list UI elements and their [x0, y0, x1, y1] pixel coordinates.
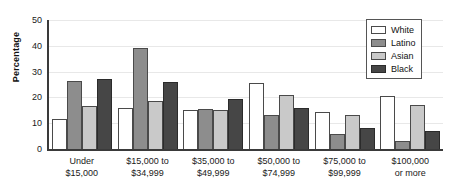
- legend-swatch: [371, 52, 386, 60]
- bar: [148, 101, 163, 149]
- bar: [133, 48, 148, 149]
- bar: [97, 79, 112, 149]
- legend-label: Asian: [391, 51, 414, 61]
- legend-item: Black: [371, 62, 416, 75]
- x-axis-label: $75,000 to$99,999: [312, 155, 378, 179]
- bar: [345, 115, 360, 149]
- bar: [380, 96, 395, 149]
- bar: [330, 134, 345, 149]
- bar: [198, 109, 213, 149]
- bar: [118, 108, 133, 149]
- bar-group: [180, 20, 246, 149]
- legend-label: Black: [391, 64, 413, 74]
- bar: [279, 95, 294, 149]
- y-axis-tick-label: 0: [37, 144, 42, 154]
- bar: [395, 141, 410, 149]
- legend-swatch: [371, 65, 386, 73]
- bar: [315, 112, 330, 149]
- bar-group: [115, 20, 181, 149]
- y-axis-tick-label: 30: [32, 67, 42, 77]
- y-axis-tick-label: 20: [32, 92, 42, 102]
- x-axis-labels: Under$15,000$15,000 to$34,999$35,000 to$…: [49, 155, 443, 179]
- bar: [360, 128, 375, 149]
- bar-group: [246, 20, 312, 149]
- x-axis-line: [47, 149, 443, 151]
- y-axis-title: Percentage: [11, 17, 21, 97]
- bar: [213, 110, 228, 149]
- legend: WhiteLatinoAsianBlack: [366, 19, 422, 79]
- y-axis-tick-label: 40: [32, 41, 42, 51]
- legend-swatch: [371, 26, 386, 34]
- bar-chart: Percentage 01020304050 Under$15,000$15,0…: [0, 0, 456, 189]
- x-axis-label: $100,000or more: [377, 155, 443, 179]
- x-axis-label: $35,000 to$49,999: [180, 155, 246, 179]
- bar: [163, 82, 178, 149]
- y-axis-tick-label: 50: [32, 15, 42, 25]
- bar: [52, 119, 67, 149]
- x-axis-label: Under$15,000: [49, 155, 115, 179]
- bar: [264, 115, 279, 149]
- legend-item: Asian: [371, 49, 416, 62]
- bar: [249, 83, 264, 149]
- legend-label: White: [391, 25, 414, 35]
- bar: [67, 81, 82, 149]
- bar-group: [49, 20, 115, 149]
- bar: [410, 105, 425, 149]
- bar: [183, 110, 198, 149]
- legend-item: White: [371, 23, 416, 36]
- x-axis-label: $15,000 to$34,999: [115, 155, 181, 179]
- legend-item: Latino: [371, 36, 416, 49]
- x-axis-label: $50,000 to$74,999: [246, 155, 312, 179]
- bar: [294, 108, 309, 149]
- legend-label: Latino: [391, 38, 416, 48]
- bar: [82, 106, 97, 149]
- bar: [228, 99, 243, 149]
- bar: [425, 131, 440, 149]
- y-axis-tick-label: 10: [32, 118, 42, 128]
- legend-swatch: [371, 39, 386, 47]
